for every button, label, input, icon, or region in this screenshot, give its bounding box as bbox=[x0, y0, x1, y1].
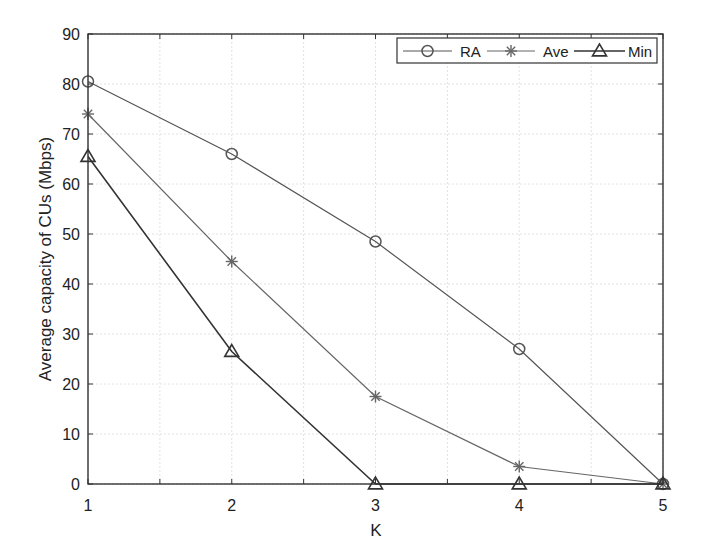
x-tick-label: 4 bbox=[515, 497, 524, 514]
x-tick-label: 2 bbox=[227, 497, 236, 514]
line-chart: 12345 0102030405060708090 K Average capa… bbox=[0, 0, 704, 560]
x-tick-label: 5 bbox=[659, 497, 668, 514]
y-tick-label: 0 bbox=[71, 476, 80, 493]
y-tick-label: 90 bbox=[62, 26, 80, 43]
y-tick-label: 80 bbox=[62, 76, 80, 93]
legend: RAAveMin bbox=[397, 38, 657, 63]
legend-label: RA bbox=[460, 43, 481, 60]
x-tick-label: 3 bbox=[371, 497, 380, 514]
asterisk-marker bbox=[226, 256, 238, 268]
x-axis-label: K bbox=[370, 521, 382, 540]
y-tick-label: 10 bbox=[62, 426, 80, 443]
y-tick-label: 60 bbox=[62, 176, 80, 193]
legend-label: Ave bbox=[543, 43, 569, 60]
y-tick-label: 30 bbox=[62, 326, 80, 343]
x-tick-label: 1 bbox=[84, 497, 93, 514]
y-axis-label: Average capacity of CUs (Mbps) bbox=[36, 137, 55, 381]
x-tick-labels: 12345 bbox=[84, 497, 668, 514]
y-tick-labels: 0102030405060708090 bbox=[62, 26, 80, 493]
y-tick-label: 50 bbox=[62, 226, 80, 243]
asterisk-marker bbox=[505, 45, 517, 57]
y-tick-label: 40 bbox=[62, 276, 80, 293]
asterisk-marker bbox=[513, 461, 525, 473]
asterisk-marker bbox=[370, 391, 382, 403]
y-tick-label: 20 bbox=[62, 376, 80, 393]
y-tick-label: 70 bbox=[62, 126, 80, 143]
grid-lines bbox=[88, 34, 663, 484]
legend-label: Min bbox=[628, 43, 652, 60]
